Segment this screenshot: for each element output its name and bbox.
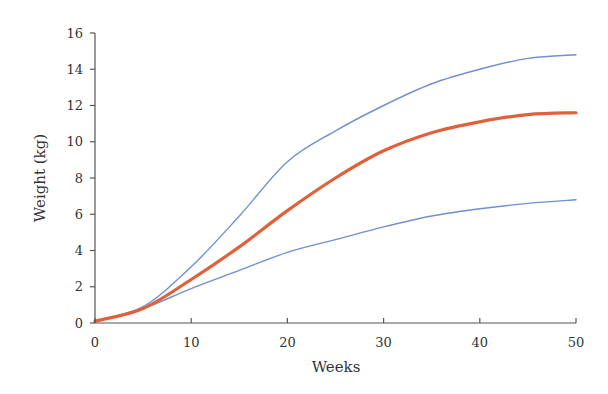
- x-tick-label: 20: [279, 335, 296, 350]
- series-line-lower-bound: [95, 200, 576, 321]
- y-tick-label: 10: [66, 134, 83, 149]
- y-axis-title: Weight (kg): [31, 134, 49, 222]
- y-tick-label: 14: [66, 62, 83, 77]
- x-tick-label: 50: [568, 335, 585, 350]
- series-lines: [95, 55, 576, 321]
- x-axis-title: Weeks: [312, 358, 361, 376]
- chart-canvas: 024681012141601020304050 Weeks Weight (k…: [0, 0, 608, 394]
- y-tick-label: 6: [75, 207, 83, 222]
- axes: 024681012141601020304050: [66, 26, 584, 351]
- series-line-upper-bound: [95, 55, 576, 321]
- growth-chart: 024681012141601020304050 Weeks Weight (k…: [0, 0, 608, 394]
- x-tick-label: 40: [472, 335, 489, 350]
- y-tick-label: 2: [75, 279, 83, 294]
- y-tick-label: 8: [75, 171, 83, 186]
- y-tick-label: 12: [66, 98, 83, 113]
- y-tick-label: 16: [66, 26, 83, 41]
- y-tick-label: 4: [75, 243, 83, 258]
- x-tick-label: 10: [183, 335, 200, 350]
- x-tick-label: 0: [91, 335, 99, 350]
- x-tick-label: 30: [375, 335, 392, 350]
- y-tick-label: 0: [75, 316, 83, 331]
